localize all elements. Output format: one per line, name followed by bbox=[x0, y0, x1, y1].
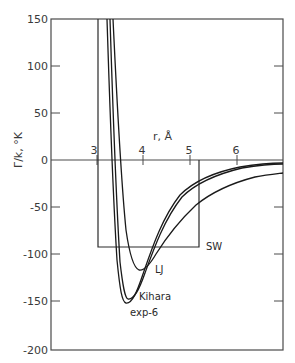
exp-6-label: exp-6 bbox=[130, 307, 158, 318]
y-tick-label: 50 bbox=[34, 107, 48, 120]
exp-6-curve bbox=[107, 19, 283, 303]
y-tick-label: 150 bbox=[27, 13, 48, 26]
y-tick-label: -200 bbox=[23, 344, 48, 357]
y-tick-label: -100 bbox=[23, 248, 48, 261]
potential-energy-chart: 150 100 50 0 -50 -100 -150 -200 Γ/k, °K … bbox=[0, 0, 295, 363]
y-axis-tick-labels: 150 100 50 0 -50 -100 -150 -200 bbox=[23, 13, 48, 357]
y-tick-label: 100 bbox=[27, 60, 48, 73]
x-tick-label: 5 bbox=[186, 144, 193, 157]
kihara-label: Kihara bbox=[139, 291, 171, 302]
square-well-curve bbox=[98, 19, 199, 247]
y-tick-label: -150 bbox=[23, 295, 48, 308]
y-tick-label: 0 bbox=[41, 154, 48, 167]
y-axis-ticks bbox=[51, 66, 283, 301]
kihara-curve bbox=[110, 19, 283, 299]
x-axis-tick-labels: 3 4 5 6 bbox=[91, 144, 240, 157]
x-tick-label: 4 bbox=[139, 144, 146, 157]
x-axis-title: r, Å bbox=[153, 130, 173, 143]
x-tick-label: 3 bbox=[91, 144, 98, 157]
y-tick-label: -50 bbox=[30, 201, 48, 214]
lj-label: LJ bbox=[155, 264, 164, 275]
y-axis-title: Γ/k, °K bbox=[12, 131, 25, 168]
x-tick-label: 6 bbox=[233, 144, 240, 157]
sw-label: SW bbox=[206, 241, 222, 252]
